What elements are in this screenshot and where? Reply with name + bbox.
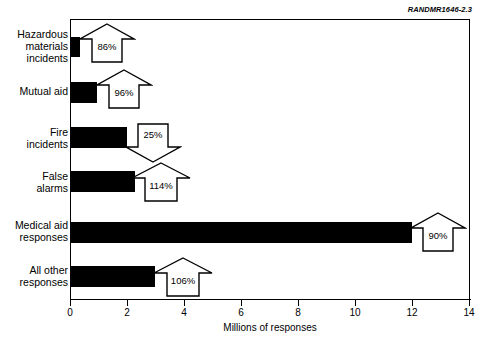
- x-tick-2: [127, 300, 128, 306]
- x-tick-4: [184, 300, 185, 306]
- x-tick-label-12: 12: [397, 307, 427, 318]
- callout-value-false-alarms: 114%: [130, 181, 192, 191]
- x-tick-label-2: 2: [112, 307, 142, 318]
- callout-false-alarms: 114%: [130, 161, 192, 203]
- bar-all-other-responses: [70, 266, 155, 287]
- category-label-false-alarms: False alarms: [36, 170, 68, 194]
- callout-mutual-aid: 96%: [95, 68, 153, 110]
- x-tick-8: [298, 300, 299, 306]
- x-tick-10: [355, 300, 356, 306]
- x-tick-label-4: 4: [169, 307, 199, 318]
- x-axis-line: [70, 299, 471, 300]
- x-tick-label-10: 10: [340, 307, 370, 318]
- category-label-mutual-aid: Mutual aid: [20, 85, 68, 97]
- callout-all-other-responses: 106%: [152, 256, 214, 298]
- chart-figure: RANDMR1646-2.3 0 2 4 6 8 10 12 14 Millio…: [0, 0, 482, 342]
- category-label-hazardous-materials-incidents: Hazardous materials incidents: [17, 28, 68, 64]
- bar-fire-incidents: [70, 127, 127, 148]
- callout-value-fire-incidents: 25%: [124, 130, 182, 140]
- source-identifier: RANDMR1646-2.3: [408, 5, 472, 14]
- x-tick-label-14: 14: [454, 307, 482, 318]
- callout-fire-incidents: 25%: [124, 122, 182, 164]
- callout-medical-aid-responses: 90%: [409, 211, 467, 253]
- x-tick-14: [469, 300, 470, 306]
- category-label-all-other-responses: All other responses: [20, 264, 68, 288]
- x-tick-12: [412, 300, 413, 306]
- bar-mutual-aid: [70, 82, 97, 103]
- category-label-medical-aid-responses: Medical aid responses: [15, 219, 68, 243]
- callout-value-all-other-responses: 106%: [152, 276, 214, 286]
- x-tick-6: [241, 300, 242, 306]
- category-label-fire-incidents: Fire incidents: [27, 126, 68, 150]
- x-tick-0: [70, 300, 71, 306]
- x-tick-label-0: 0: [55, 307, 85, 318]
- callout-hazardous-materials-incidents: 86%: [78, 22, 136, 64]
- x-axis-title-text: Millions of responses: [223, 322, 316, 333]
- callout-value-medical-aid-responses: 90%: [409, 231, 467, 241]
- x-axis-title: Millions of responses: [0, 322, 482, 333]
- callout-value-mutual-aid: 96%: [95, 88, 153, 98]
- callout-value-hazardous-materials-incidents: 86%: [78, 42, 136, 52]
- x-tick-label-6: 6: [226, 307, 256, 318]
- bar-false-alarms: [70, 171, 135, 192]
- x-tick-label-8: 8: [283, 307, 313, 318]
- bar-medical-aid-responses: [70, 222, 412, 243]
